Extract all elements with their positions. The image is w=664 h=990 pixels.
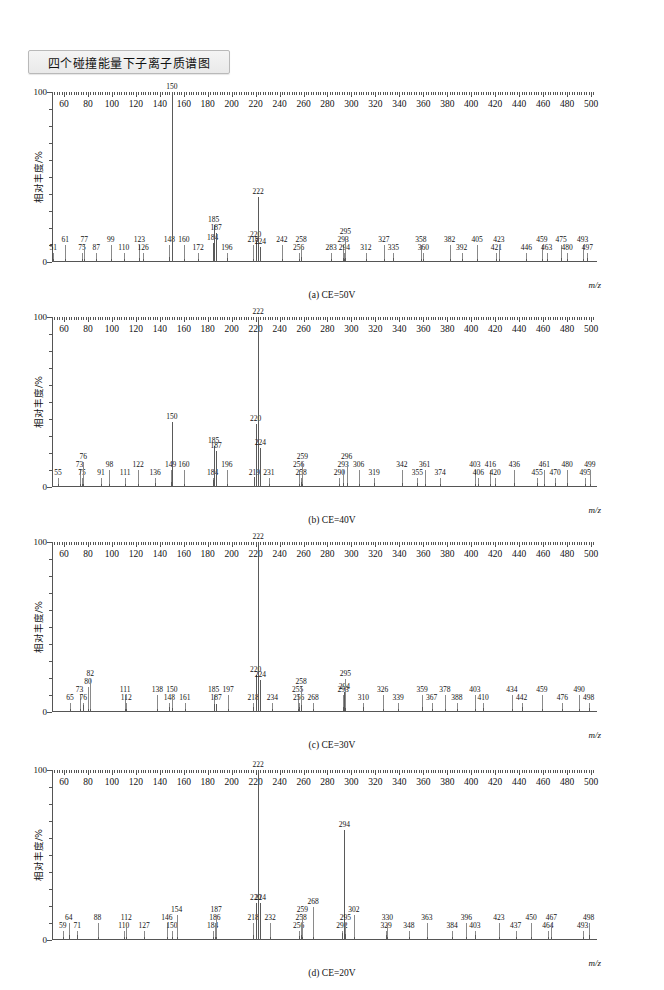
x-tick-minor [169,542,170,545]
x-tick-minor [313,770,314,773]
plot-area-b: 0100相对丰度/%608010012014016018020022024026… [52,317,597,487]
peak-leader-line [475,695,476,709]
x-tick-minor [117,770,118,773]
x-tick-minor [95,770,96,773]
x-tick-minor [117,92,118,95]
x-tick-minor [246,770,247,773]
x-tick-minor [454,542,455,545]
x-tick-minor [95,542,96,545]
spectrum-peak [260,448,261,487]
x-tick-minor [361,92,362,95]
peak-label: 476 [557,694,568,702]
x-tick-minor [524,92,525,95]
peak-leader-line [537,478,538,483]
x-tick-major [471,92,472,97]
x-tick-minor [488,92,489,95]
y-tick-label: 100 [34,88,48,97]
x-tick-minor [133,317,134,320]
y-tick [49,228,52,229]
x-tick-minor [464,542,465,545]
x-tick-minor [555,770,556,773]
x-tick-minor [387,770,388,773]
x-tick-minor [210,92,211,95]
x-tick-minor [512,317,513,320]
x-tick-label: 320 [368,99,382,109]
x-tick-label: 100 [105,549,119,559]
x-tick-minor [502,770,503,773]
peak-leader-line [450,245,451,259]
x-tick-minor [165,92,166,95]
y-tick-label: 0 [43,708,48,717]
peak-label: 312 [360,244,371,252]
x-tick-major [256,92,257,97]
x-tick-minor [390,317,391,320]
x-tick-minor [119,770,120,773]
y-tick [49,923,52,924]
spectrum-peak [339,484,340,487]
x-tick-major [399,317,400,322]
spectrum-peak [299,936,300,940]
peak-leader-line [301,687,302,705]
x-tick-major [112,770,113,775]
peak-leader-line [272,703,273,709]
x-tick-minor [510,92,511,95]
x-tick-minor [553,542,554,545]
peak-leader-line [125,478,126,484]
spectrum-peak [398,709,399,712]
x-tick-minor [98,92,99,95]
x-tick-minor [102,317,103,320]
x-tick-minor [289,770,290,773]
x-tick-major [375,770,376,775]
spectrum-peak [347,483,348,487]
x-tick-minor [586,770,587,773]
x-tick-minor [81,317,82,320]
x-tick-minor [359,317,360,320]
peak-leader-line [354,915,355,937]
y-tick [49,855,52,856]
x-tick-minor [133,92,134,95]
x-tick-minor [344,770,345,773]
x-tick-minor [402,770,403,773]
peak-leader-line [345,679,346,708]
peak-leader-line [347,462,348,483]
x-tick-label: 300 [344,324,358,334]
peak-label: 392 [456,244,467,252]
x-tick-minor [488,770,489,773]
x-tick-major [471,770,472,775]
x-tick-minor [251,542,252,545]
x-tick-minor [459,770,460,773]
x-axis-title: m/z [588,730,601,740]
x-tick-minor [268,92,269,95]
x-tick-minor [555,542,556,545]
x-tick-minor [224,770,225,773]
x-tick-minor [181,770,182,773]
x-tick-minor [481,317,482,320]
peak-label: 470 [549,469,560,477]
x-tick-label: 340 [392,549,406,559]
x-tick-minor [129,317,130,320]
peak-label: 497 [582,244,593,252]
x-tick-minor [292,317,293,320]
x-tick-minor [416,770,417,773]
x-tick-minor [186,92,187,95]
y-axis [52,542,53,712]
x-tick-minor [155,317,156,320]
x-tick-minor [220,92,221,95]
x-tick-minor [196,770,197,773]
x-tick-label: 280 [320,324,334,334]
x-tick-label: 240 [272,777,286,787]
peak-leader-line [342,931,343,933]
x-tick-minor [181,542,182,545]
x-tick-minor [239,542,240,545]
x-tick-minor [536,317,537,320]
x-tick-minor [536,92,537,95]
x-tick-minor [201,317,202,320]
x-tick-label: 60 [59,777,69,787]
peak-leader-line [445,695,446,709]
x-tick-minor [387,92,388,95]
x-tick-major [256,770,257,775]
x-tick-minor [109,317,110,320]
x-tick-label: 80 [83,549,93,559]
peak-label: 258 [296,469,307,477]
x-tick-major [208,317,209,322]
